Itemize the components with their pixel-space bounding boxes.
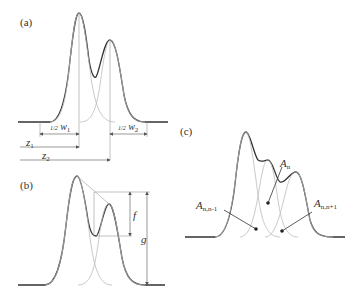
panel-a-label: (a) [20, 17, 32, 28]
g-label: g [141, 234, 147, 245]
an-np1-label: An,n+1 [314, 198, 337, 211]
an-label: An [280, 158, 290, 171]
panel-b-plot [18, 176, 165, 285]
point-an [266, 201, 270, 205]
f-label: f [133, 210, 136, 221]
component-peak-1-a [50, 13, 115, 122]
half-width-2-label: 1/2 w2 [118, 122, 138, 134]
half-width-1-label: 1/2 w1 [50, 122, 70, 134]
component-peak-n-minus-1 [215, 132, 280, 237]
overlapping-peaks-diagram [0, 0, 357, 301]
envelope-curve-a [18, 13, 168, 122]
position-z2-label: z2 [42, 150, 50, 163]
panel-b-label: (b) [20, 180, 33, 191]
position-z1-label: z1 [26, 137, 34, 150]
an-nm1-label: An,n-1 [196, 200, 217, 213]
component-peak-n [240, 160, 298, 237]
panel-c-plot [185, 132, 345, 237]
panel-c-label: (c) [180, 126, 192, 137]
component-peak-1-b [45, 176, 112, 285]
point-an-np1 [280, 229, 284, 233]
envelope-curve-b [18, 176, 165, 285]
panel-a-plot [18, 13, 168, 160]
point-an-nm1 [254, 227, 258, 231]
component-peak-2-a [80, 40, 145, 122]
envelope-curve-c [185, 132, 345, 237]
